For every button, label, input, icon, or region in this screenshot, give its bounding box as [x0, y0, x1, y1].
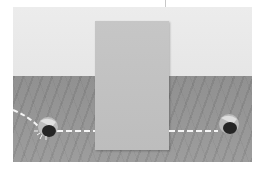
ball-left — [34, 117, 58, 140]
ball-right — [219, 114, 239, 134]
dashed-path-left-curve — [13, 110, 38, 126]
trajectory-overlay — [0, 0, 260, 173]
